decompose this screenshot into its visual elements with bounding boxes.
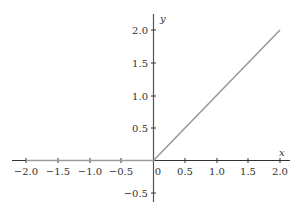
y-tick-label: 1.0: [132, 91, 148, 102]
x-tick-label: −0.5: [109, 166, 133, 177]
x-tick-label: 0.5: [177, 166, 193, 177]
x-tick-label: 0: [155, 166, 161, 177]
x-tick-labels: −2.0 −1.5 −1.0 −0.5 0 0.5 1.0 1.5 2.0: [14, 166, 288, 177]
x-tick-label: −1.5: [46, 166, 70, 177]
y-axis-label: y: [159, 13, 166, 24]
chart: −2.0 −1.5 −1.0 −0.5 0 0.5 1.0 1.5 2.0 −0…: [0, 0, 302, 218]
x-tick-label: −2.0: [14, 166, 38, 177]
x-tick-label: −1.0: [78, 166, 102, 177]
y-tick-label: 1.5: [132, 58, 148, 69]
x-tick-label: 1.5: [240, 166, 256, 177]
y-tick-label: 0.5: [132, 123, 148, 134]
x-axis-label: x: [279, 147, 285, 158]
y-tick-label: −0.5: [124, 188, 148, 199]
x-tick-label: 2.0: [272, 166, 288, 177]
x-tick-label: 1.0: [209, 166, 225, 177]
y-tick-label: 2.0: [132, 25, 148, 36]
